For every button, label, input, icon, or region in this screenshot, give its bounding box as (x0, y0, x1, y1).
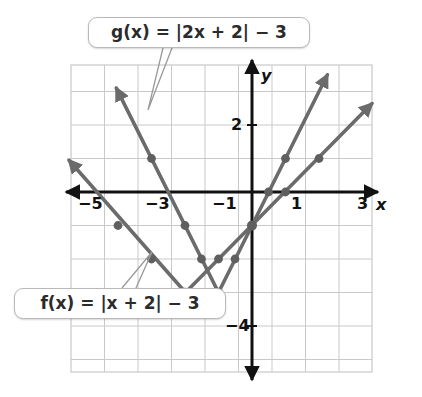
f-function-label: f(x) = |x + 2| − 3 (40, 295, 199, 312)
g-point (247, 221, 257, 231)
g-point (197, 255, 206, 264)
g-point (231, 255, 240, 264)
x-tick-label-minus1: −1 (212, 196, 237, 212)
x-tick-label-3: 3 (357, 196, 368, 212)
g-point (281, 154, 290, 163)
f-point (281, 188, 290, 197)
g-point (264, 188, 273, 197)
x-axis-label: x (376, 197, 386, 213)
g-function-label: g(x) = |2x + 2| − 3 (111, 24, 287, 41)
x-tick-label-1: 1 (291, 196, 302, 212)
g-point (147, 154, 156, 163)
x-tick-label-minus5: −5 (78, 196, 103, 212)
x-tick-label-minus3: −3 (145, 196, 170, 212)
y-tick-label-2: 2 (231, 117, 242, 133)
absolute-value-graph-figure: −5 −3 −1 1 3 x y 2 −4 g(x) = |2x + 2| − … (0, 0, 422, 397)
f-function-callout: f(x) = |x + 2| − 3 (14, 288, 226, 319)
g-function-callout: g(x) = |2x + 2| − 3 (88, 17, 310, 48)
f-point (114, 221, 123, 230)
y-tick-label-minus4: −4 (225, 318, 250, 334)
f-point (315, 154, 324, 163)
y-axis-label: y (261, 68, 271, 84)
f-point (214, 255, 223, 264)
g-point (181, 221, 190, 230)
